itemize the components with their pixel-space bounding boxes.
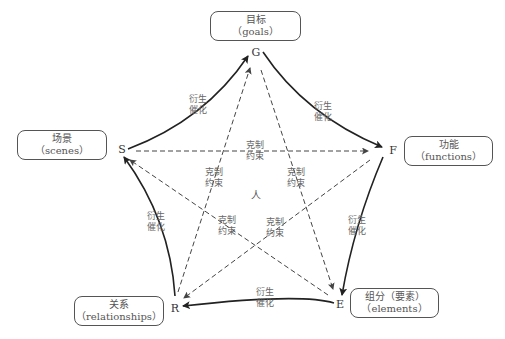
- node-f: F: [389, 144, 397, 157]
- center-label-human: 人: [251, 187, 261, 202]
- label-r-to-s: 衍生 催化: [147, 211, 165, 233]
- relationships-title: 关系: [109, 299, 129, 311]
- goals-box: 目标 （goals）: [210, 11, 301, 41]
- scenes-box: 场景 （scenes）: [17, 130, 107, 160]
- label-e-to-s: 克制 约束: [218, 215, 236, 237]
- label-g-to-e: 克制 约束: [287, 167, 305, 189]
- goals-title: 目标: [246, 14, 266, 26]
- relationships-subtitle: （relationships）: [76, 311, 162, 323]
- scenes-title: 场景: [52, 133, 72, 145]
- label-e-to-r: 衍生 催化: [256, 287, 274, 309]
- label-s-to-f: 克制 约束: [246, 140, 264, 162]
- node-r: R: [171, 302, 179, 315]
- node-g: G: [252, 46, 261, 59]
- functions-box: 功能 （functions）: [404, 136, 493, 166]
- label-g-to-f: 衍生 催化: [314, 101, 332, 123]
- node-s: S: [118, 143, 126, 156]
- functions-title: 功能: [439, 139, 459, 151]
- elements-box: 组分（要素） （elements）: [350, 288, 439, 318]
- label-r-to-g: 克制 约束: [205, 167, 223, 189]
- edge-g-to-f: [263, 52, 382, 147]
- label-s-to-g: 衍生 催化: [189, 94, 207, 116]
- edge-s-to-g: [128, 56, 248, 149]
- goals-subtitle: （goals）: [232, 26, 279, 38]
- elements-title: 组分（要素）: [365, 291, 425, 303]
- elements-subtitle: （elements）: [361, 303, 427, 315]
- label-f-to-r: 克制 约束: [266, 217, 284, 239]
- label-f-to-e: 衍生 催化: [348, 215, 366, 237]
- relationships-box: 关系 （relationships）: [74, 296, 164, 326]
- scenes-subtitle: （scenes）: [35, 145, 89, 157]
- node-e: E: [336, 298, 344, 311]
- functions-subtitle: （functions）: [415, 151, 482, 163]
